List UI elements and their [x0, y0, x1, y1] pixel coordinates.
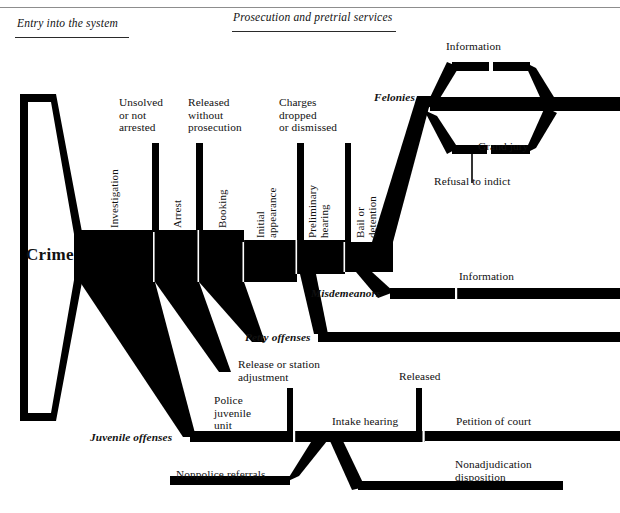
label-information-felony: Information — [446, 40, 501, 53]
label-information-misdemeanor: Information — [459, 270, 514, 283]
stem-unsolved — [152, 143, 159, 232]
track-label-felonies: Felonies — [374, 91, 415, 104]
label-grand-jury: Grand jury — [478, 140, 528, 153]
hex-right-lower — [524, 107, 557, 154]
stage-label-preliminary-hearing: Preliminary hearing — [306, 185, 330, 238]
section-rule-prosecution — [232, 31, 396, 32]
band-juvenile-petition — [425, 431, 620, 441]
tick-initial-preliminary — [296, 240, 298, 274]
tick-arrest-booking — [198, 230, 200, 282]
band-arrest — [155, 230, 199, 282]
track-label-petty-offenses: Petty offenses — [245, 331, 311, 344]
tick-information-felony — [489, 62, 493, 71]
band-initial-appearance — [244, 240, 297, 282]
label-nonadjudication-disposition: Nonadjudication disposition — [455, 458, 532, 483]
tick-juvenile-intake-petition — [423, 431, 425, 442]
stem-released-without-prosecution — [196, 143, 203, 232]
tick-juvenile-police-unit — [293, 431, 295, 442]
stem-charges-dropped-2 — [345, 143, 351, 242]
label-released-juvenile: Released — [399, 370, 441, 383]
flow-petty-diag — [300, 274, 328, 334]
stem-charges-dropped — [297, 143, 304, 242]
section-rule-entry — [15, 37, 129, 38]
band-misdemeanors — [390, 288, 620, 299]
stem-released-juvenile — [416, 388, 422, 432]
label-refusal-to-indict: Refusal to indict — [434, 175, 510, 188]
stage-label-arrest: Arrest — [171, 200, 183, 228]
tick-booking-initial — [243, 240, 245, 282]
flowchart-page: Entry into the system Prosecution and pr… — [0, 0, 620, 513]
tick-misdemeanors-information — [455, 288, 457, 299]
section-heading-prosecution: Prosecution and pretrial services — [233, 11, 392, 24]
stage-label-bail-detention: Bail or detention — [354, 196, 378, 238]
band-investigation — [80, 230, 155, 282]
stage-label-investigation: Investigation — [108, 169, 120, 228]
label-intake-hearing: Intake hearing — [332, 415, 398, 428]
track-label-misdemeanors: Misdemeanors — [311, 287, 381, 300]
bar-information-felony — [452, 62, 489, 71]
label-police-juvenile-unit: Police juvenile unit — [214, 394, 251, 432]
track-label-juvenile-offenses: Juvenile offenses — [90, 431, 172, 444]
label-release-or-station-adjustment: Release or station adjustment — [238, 358, 320, 383]
crime-funnel-label: Crime — [26, 245, 74, 264]
band-petty-offenses — [318, 332, 620, 342]
dropoff-label-unsolved: Unsolved or not arrested — [119, 96, 163, 134]
flow-felonies-up — [372, 96, 432, 242]
stage-label-initial-appearance: Initial appearance — [254, 188, 278, 238]
label-nonpolice-referrals: Nonpolice referrals — [176, 468, 265, 481]
band-bail-detention — [345, 242, 393, 272]
band-booking — [199, 230, 244, 282]
riser-booking-initial — [242, 230, 244, 242]
label-petition-of-court: Petition of court — [456, 415, 531, 428]
band-felony-main — [430, 97, 620, 111]
stem-release-station-adjustment — [287, 388, 293, 432]
band-juvenile-main — [190, 431, 295, 442]
bar-information-felony-right — [493, 62, 530, 71]
dropoff-label-charges-dropped: Charges dropped or dismissed — [279, 96, 337, 134]
tick-preliminary-bail — [344, 242, 346, 272]
dropoff-label-released-without-prosecution: Released without prosecution — [188, 96, 242, 134]
section-heading-entry: Entry into the system — [17, 17, 118, 30]
stage-label-booking: Booking — [216, 189, 228, 228]
tick-investigation-arrest — [153, 230, 155, 282]
